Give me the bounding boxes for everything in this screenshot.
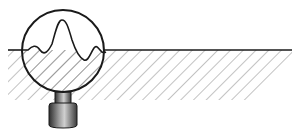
diagram-canvas	[0, 0, 298, 135]
surface-magnifier-diagram	[0, 0, 298, 135]
hatched-material	[0, 50, 298, 110]
handle-neck	[55, 92, 71, 104]
handle-base	[49, 103, 77, 128]
